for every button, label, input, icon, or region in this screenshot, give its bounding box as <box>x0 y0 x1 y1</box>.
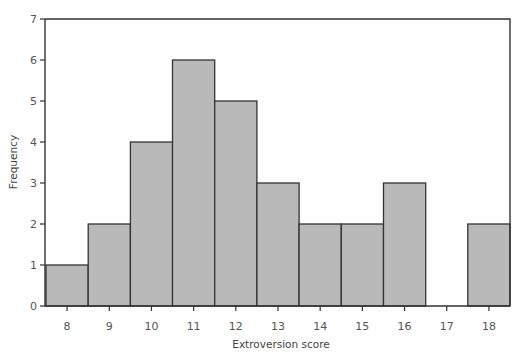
y-tick-label: 0 <box>30 300 37 313</box>
y-axis-title: Frequency <box>7 135 19 189</box>
bar-18 <box>468 224 510 306</box>
x-tick-label: 11 <box>187 320 201 333</box>
y-tick-label: 4 <box>30 136 37 149</box>
y-tick-label: 3 <box>30 177 37 190</box>
x-tick-label: 12 <box>229 320 243 333</box>
y-tick-label: 5 <box>30 95 37 108</box>
y-tick-label: 7 <box>30 13 37 26</box>
bar-12 <box>215 101 257 306</box>
bar-9 <box>88 224 130 306</box>
bar-10 <box>130 142 172 306</box>
x-tick-label: 16 <box>398 320 412 333</box>
x-tick-label: 14 <box>313 320 327 333</box>
y-tick-label: 1 <box>30 259 37 272</box>
y-tick-label: 6 <box>30 54 37 67</box>
x-axis-title: Extroversion score <box>232 338 329 350</box>
bar-11 <box>173 60 215 306</box>
bars-group <box>46 60 510 306</box>
bar-8 <box>46 265 88 306</box>
x-tick-label: 18 <box>482 320 496 333</box>
x-tick-label: 8 <box>64 320 71 333</box>
bar-14 <box>299 224 341 306</box>
bar-16 <box>384 183 426 306</box>
x-tick-label: 17 <box>440 320 454 333</box>
x-axis: 89101112131415161718 <box>64 306 496 333</box>
bar-13 <box>257 183 299 306</box>
x-tick-label: 15 <box>355 320 369 333</box>
x-tick-label: 13 <box>271 320 285 333</box>
histogram-chart: 01234567 89101112131415161718 Extroversi… <box>0 0 522 360</box>
x-tick-label: 10 <box>144 320 158 333</box>
y-axis: 01234567 <box>30 13 45 313</box>
bar-15 <box>341 224 383 306</box>
x-tick-label: 9 <box>106 320 113 333</box>
y-tick-label: 2 <box>30 218 37 231</box>
